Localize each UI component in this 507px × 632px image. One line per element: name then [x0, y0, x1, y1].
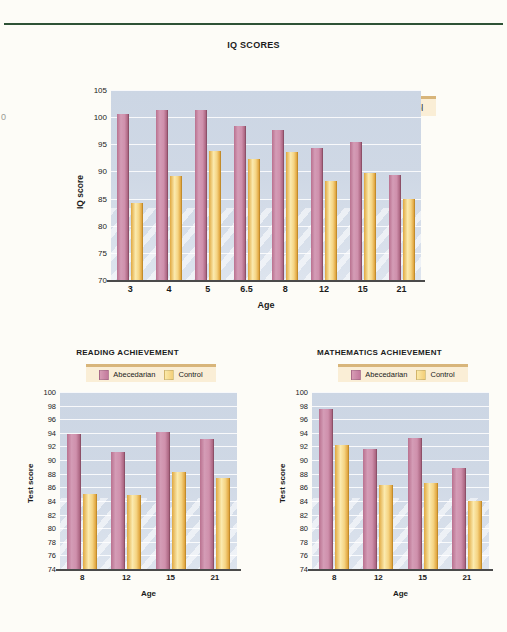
x-axis-ticks-reading: 8121521 [60, 573, 237, 582]
y-tick-math-88: 88 [300, 469, 308, 478]
bar-group [344, 90, 383, 280]
y-tick-reading-86: 86 [48, 483, 56, 492]
x-tick-math-15: 15 [401, 573, 445, 582]
x-tick-iq-8: 8 [266, 284, 305, 294]
bar-abecedarian-15 [350, 142, 362, 280]
bar-abecedarian-3 [117, 114, 129, 280]
chart-reading-achievement: READING ACHIEVEMENT Abecedarian Control … [0, 348, 255, 632]
legend-swatch-abecedarian-icon [351, 370, 361, 380]
y-axis-label-reading: Test score [26, 464, 35, 503]
x-axis-label-mathematics: Age [312, 589, 489, 598]
legend-item-abecedarian: Abecedarian [351, 370, 407, 380]
bar-group [193, 392, 237, 569]
y-tick-math-86: 86 [300, 483, 308, 492]
x-tick-math-8: 8 [312, 573, 356, 582]
legend-swatch-control-icon [164, 370, 174, 380]
legend-label-abecedarian: Abecedarian [365, 370, 407, 379]
bar-control-12 [379, 485, 393, 569]
y-tick-iq-80: 80 [98, 221, 107, 230]
y-tick-math-80: 80 [300, 524, 308, 533]
y-tick-math-82: 82 [300, 510, 308, 519]
chart-mathematics-achievement: MATHEMATICS ACHIEVEMENT Abecedarian Cont… [252, 348, 507, 632]
bar-group [111, 90, 150, 280]
x-tick-iq-3: 3 [111, 284, 150, 294]
bar-group [266, 90, 305, 280]
legend-item-control: Control [164, 370, 202, 380]
legend-item-abecedarian: Abecedarian [99, 370, 155, 380]
bar-control-12 [127, 495, 141, 569]
bar-control-8 [335, 445, 349, 569]
x-tick-iq-5: 5 [189, 284, 228, 294]
bar-group [149, 392, 193, 569]
bar-control-15 [172, 472, 186, 569]
x-tick-math-21: 21 [445, 573, 489, 582]
bar-group [356, 392, 400, 569]
y-tick-reading-76: 76 [48, 551, 56, 560]
legend-swatch-control-icon [416, 370, 426, 380]
y-tick-reading-82: 82 [48, 510, 56, 519]
y-tick-math-76: 76 [300, 551, 308, 560]
y-tick-reading-100: 100 [43, 388, 56, 397]
bar-abecedarian-21 [389, 175, 401, 280]
plot-area-mathematics [312, 392, 489, 569]
y-tick-reading-84: 84 [48, 496, 56, 505]
bar-control-21 [403, 199, 415, 280]
y-tick-math-92: 92 [300, 442, 308, 451]
bar-group [60, 392, 104, 569]
bar-groups-reading [60, 392, 237, 569]
y-tick-math-90: 90 [300, 456, 308, 465]
bar-control-5 [209, 151, 221, 280]
y-tick-math-78: 78 [300, 537, 308, 546]
y-tick-math-96: 96 [300, 415, 308, 424]
y-tick-reading-94: 94 [48, 428, 56, 437]
x-tick-reading-12: 12 [104, 573, 148, 582]
bar-group [445, 392, 489, 569]
x-tick-iq-21: 21 [382, 284, 421, 294]
bar-group [382, 90, 421, 280]
bar-control-21 [216, 478, 230, 569]
bar-group [150, 90, 189, 280]
legend-label-abecedarian: Abecedarian [113, 370, 155, 379]
bar-abecedarian-8 [272, 130, 284, 280]
bar-abecedarian-4 [156, 110, 168, 280]
y-tick-reading-74: 74 [48, 565, 56, 574]
y-tick-iq-100: 100 [94, 113, 107, 122]
bar-control-15 [424, 483, 438, 569]
y-tick-reading-90: 90 [48, 456, 56, 465]
y-tick-iq-105: 105 [94, 86, 107, 95]
x-axis-line-iq [107, 280, 425, 282]
bar-control-15 [364, 173, 376, 280]
x-axis-line-reading [56, 569, 241, 571]
legend-mathematics: Abecedarian Control [338, 364, 468, 382]
bar-group [189, 90, 228, 280]
x-tick-iq-12: 12 [305, 284, 344, 294]
bar-control-8 [83, 494, 97, 569]
bar-control-6.5 [248, 159, 260, 280]
bar-abecedarian-21 [200, 439, 214, 569]
bar-abecedarian-8 [319, 409, 333, 569]
y-axis-label-mathematics: Test score [278, 464, 287, 503]
bar-group [104, 392, 148, 569]
bar-control-21 [468, 501, 482, 569]
x-axis-ticks-iq: 3456.58121521 [111, 284, 421, 294]
x-axis-ticks-mathematics: 8121521 [312, 573, 489, 582]
bar-abecedarian-21 [452, 468, 466, 569]
y-tick-iq-85: 85 [98, 194, 107, 203]
chart-title-mathematics: MATHEMATICS ACHIEVEMENT [252, 348, 507, 357]
legend-label-control: Control [430, 370, 454, 379]
x-axis-label-iq: Age [111, 300, 421, 310]
y-tick-math-98: 98 [300, 401, 308, 410]
x-tick-math-12: 12 [356, 573, 400, 582]
bar-abecedarian-12 [111, 452, 125, 569]
bar-abecedarian-15 [156, 432, 170, 569]
chart-title-iq: IQ SCORES [0, 40, 507, 50]
bar-group [312, 392, 356, 569]
x-tick-reading-8: 8 [60, 573, 104, 582]
bar-group [227, 90, 266, 280]
bar-abecedarian-15 [408, 438, 422, 569]
bar-group [305, 90, 344, 280]
bar-groups-iq [111, 90, 421, 280]
y-tick-iq-90: 90 [98, 167, 107, 176]
y-tick-reading-98: 98 [48, 401, 56, 410]
bar-abecedarian-12 [363, 449, 377, 569]
